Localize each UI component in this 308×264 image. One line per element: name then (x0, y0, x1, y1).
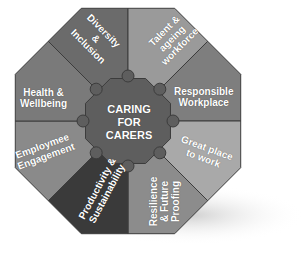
center-line: CARERS (98, 129, 160, 142)
puzzle-knob (167, 115, 179, 127)
label-line: Wellbeing (20, 98, 67, 109)
label-line: Health & (20, 87, 67, 98)
center-title: CARING FOR CARERS (98, 103, 160, 142)
center-line: FOR (98, 116, 160, 129)
label-line: & Future (159, 177, 170, 226)
puzzle-knob (154, 147, 166, 159)
center-line: CARING (98, 103, 160, 116)
caring-for-carers-diagram: Diversity & Inclusion Talent & ageing wo… (0, 0, 308, 264)
puzzle-knob (122, 70, 134, 82)
segment-label-responsible-workplace: Responsible Workplace (174, 86, 233, 108)
label-line: Responsible (174, 86, 233, 97)
label-line: Workplace (174, 97, 233, 108)
label-line: Resilience (148, 177, 159, 226)
segment-label-resilience-future-proofing: Resilience & Future Proofing (148, 177, 181, 226)
puzzle-knob (154, 83, 166, 95)
puzzle-knob (77, 115, 89, 127)
segment-label-health-wellbeing: Health & Wellbeing (20, 87, 67, 109)
puzzle-knob (90, 147, 102, 159)
label-line: Proofing (170, 177, 181, 226)
puzzle-knob (90, 83, 102, 95)
